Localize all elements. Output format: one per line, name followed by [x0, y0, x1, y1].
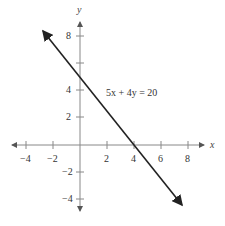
x-tick-label: 2 — [104, 154, 109, 164]
y-axis — [76, 22, 84, 211]
x-tick-label: 6 — [158, 154, 163, 164]
x-tick-label: 4 — [131, 154, 136, 164]
x-tick-label: 8 — [185, 154, 190, 164]
y-tick-label: −2 — [62, 167, 73, 177]
y-axis-label: y — [77, 5, 81, 15]
y-tick-label: 8 — [66, 31, 71, 41]
coordinate-graph: y x −4 −2 2 4 6 8 8 4 2 −2 −4 5x + 4y = … — [0, 0, 225, 226]
x-axis-label: x — [210, 140, 214, 150]
graph-canvas — [0, 0, 225, 226]
equation-label: 5x + 4y = 20 — [106, 88, 157, 98]
x-tick-label: −2 — [47, 154, 58, 164]
x-tick-label: −4 — [20, 154, 31, 164]
y-tick-label: 4 — [66, 85, 71, 95]
y-tick-label: 2 — [66, 112, 71, 122]
x-axis — [12, 141, 204, 149]
y-tick-label: −4 — [62, 194, 73, 204]
